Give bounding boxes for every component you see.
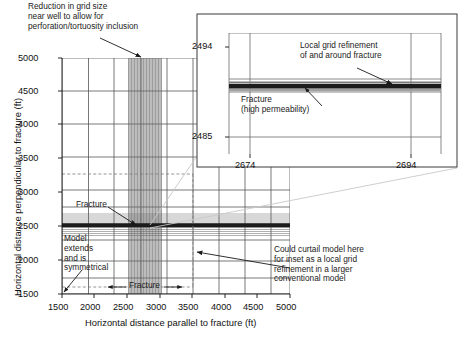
xtick-2000: 2000 xyxy=(80,302,100,313)
annotation-fracture-permeability: Fracture (high permeability) xyxy=(241,95,309,115)
xtick-1500: 1500 xyxy=(48,302,68,313)
annotation-model-extends: Model extends and is symmetrical xyxy=(64,234,108,273)
xtick-4500: 4500 xyxy=(243,302,263,313)
leader-model-extends xyxy=(64,270,82,292)
ytick-4500: 4500 xyxy=(18,86,38,97)
xtick-2500: 2500 xyxy=(113,302,133,313)
y-axis-label: Horizontal distance perpendicular to fra… xyxy=(12,98,23,296)
x-axis-label: Horizontal distance parallel to fracture… xyxy=(85,317,256,328)
xtick-5000: 5000 xyxy=(276,302,296,313)
leader-grid-reduction xyxy=(100,38,141,57)
xtick-3000: 3000 xyxy=(146,302,166,313)
inset-xtick-2694: 2694 xyxy=(396,160,416,171)
annotation-local-refinement: Local grid refinement of and around frac… xyxy=(300,41,382,61)
annotation-grid-reduction: Reduction in grid size near well to allo… xyxy=(28,2,138,31)
inset-fracture-line xyxy=(229,84,441,89)
inset-xtick-2674: 2674 xyxy=(235,160,255,171)
annotation-fracture-bottom: Fracture xyxy=(129,281,160,291)
well-refinement-band xyxy=(128,58,162,294)
inset-refine-lower xyxy=(229,89,441,91)
xtick-3500: 3500 xyxy=(178,302,198,313)
inset-refine-upper xyxy=(229,82,441,84)
inset-ytick-2494: 2494 xyxy=(192,41,212,52)
annotation-fracture-main: Fracture xyxy=(76,200,107,210)
xtick-4000: 4000 xyxy=(211,302,231,313)
inset-ytick-2485: 2485 xyxy=(192,131,212,142)
figure-canvas xyxy=(0,0,464,341)
ytick-5000: 5000 xyxy=(18,53,38,64)
annotation-curtail: Could curtail model here for inset as a … xyxy=(274,245,364,284)
fracture-line xyxy=(62,223,290,227)
reservoir-grid-figure: Reduction in grid size near well to allo… xyxy=(0,0,464,341)
